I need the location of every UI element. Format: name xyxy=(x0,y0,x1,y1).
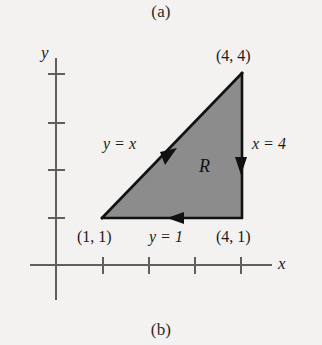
x-axis-label: x xyxy=(278,255,286,272)
edge-label-x-equals-4: x = 4 xyxy=(252,136,286,152)
figure-panel: (a) y x (4, 4) y = x x = 4 (1, 1) y = 1 … xyxy=(0,0,322,345)
y-axis-label: y xyxy=(41,44,49,61)
vertex-label-1-1: (1, 1) xyxy=(77,229,112,245)
region-label-R: R xyxy=(199,157,210,175)
vertex-label-4-4: (4, 4) xyxy=(216,48,251,64)
edge-label-y-equals-1: y = 1 xyxy=(149,229,183,245)
edge-label-y-equals-x: y = x xyxy=(103,136,136,152)
figure-caption-b: (b) xyxy=(0,320,322,340)
vertex-label-4-1: (4, 1) xyxy=(216,229,251,245)
